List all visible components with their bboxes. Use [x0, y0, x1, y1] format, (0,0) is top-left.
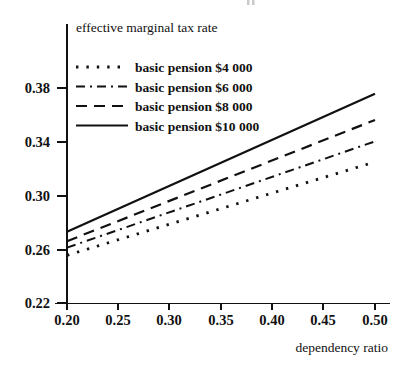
x-tick-label: 0.45 [310, 312, 335, 328]
y-tick-label: 0.30 [25, 188, 50, 204]
x-tick-label: 0.50 [362, 312, 387, 328]
effective-marginal-tax-rate-chart: 0.38 0.34 0.30 0.26 0.22 0.20 0.25 0.30 … [0, 0, 397, 366]
x-tick-label: 0.25 [105, 312, 130, 328]
legend-label: basic pension $10 000 [135, 119, 259, 134]
x-tick-label: 0.35 [208, 312, 233, 328]
x-axis-title: dependency ratio [295, 340, 388, 355]
x-tick-label: 0.40 [259, 312, 284, 328]
legend-label: basic pension $8 000 [135, 99, 253, 114]
chart-figure: 0.38 0.34 0.30 0.26 0.22 0.20 0.25 0.30 … [0, 0, 397, 366]
legend-label: basic pension $6 000 [135, 80, 253, 95]
x-tick-label: 0.20 [54, 312, 79, 328]
legend-label: basic pension $4 000 [135, 60, 253, 75]
y-tick-label: 0.38 [25, 80, 50, 96]
y-tick-label: 0.26 [25, 242, 50, 258]
y-tick-label: 0.34 [25, 134, 50, 150]
y-tick-label: 0.22 [25, 295, 50, 311]
y-axis-title: effective marginal tax rate [76, 20, 218, 35]
x-tick-label: 0.30 [156, 312, 181, 328]
